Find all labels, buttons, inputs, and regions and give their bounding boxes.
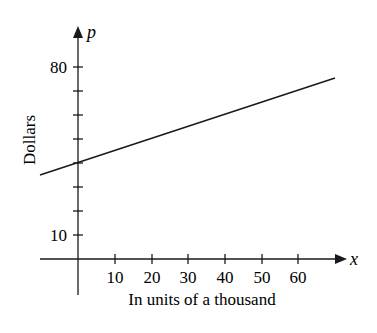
x-tick-label-40: 40 xyxy=(217,268,234,287)
y-axis-title: Dollars xyxy=(20,115,39,165)
chart: 80 10 10 20 30 40 50 60 p x Dollars In u… xyxy=(0,0,377,333)
data-line xyxy=(40,78,335,175)
x-tick-label-10: 10 xyxy=(107,268,124,287)
y-variable-label: p xyxy=(85,22,96,42)
x-tick-label-50: 50 xyxy=(254,268,271,287)
x-tick-label-20: 20 xyxy=(144,268,161,287)
x-tick-label-60: 60 xyxy=(290,268,307,287)
x-axis-title: In units of a thousand xyxy=(128,290,276,309)
x-variable-label: x xyxy=(349,249,358,269)
y-tick-label-80: 80 xyxy=(50,58,67,77)
y-tick-label-10: 10 xyxy=(50,226,67,245)
x-axis-arrow-icon xyxy=(335,254,347,264)
x-tick-label-30: 30 xyxy=(180,268,197,287)
y-axis-arrow-icon xyxy=(73,26,83,38)
